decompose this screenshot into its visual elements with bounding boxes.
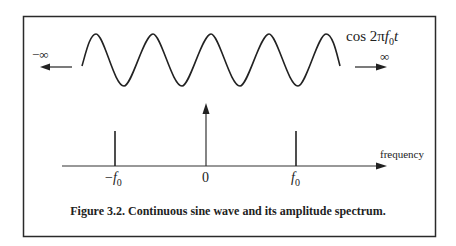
pos-infinity-label: ∞: [380, 49, 389, 65]
tick-zero: 0: [202, 170, 209, 186]
tick-pos-sub: 0: [295, 177, 300, 188]
formula-label: cos 2πf0t: [346, 28, 398, 47]
formula-prefix: cos 2π: [346, 28, 385, 44]
neg-infinity-label: −∞: [32, 47, 49, 63]
tick-neg-f0: −f0: [105, 170, 122, 188]
sine-wave: [82, 34, 340, 86]
tick-neg-sub: 0: [117, 177, 122, 188]
tick-pos-f0: f0: [291, 170, 300, 188]
tick-neg-sign: −: [105, 170, 113, 185]
formula-t: t: [394, 28, 398, 44]
frequency-axis: [62, 163, 387, 170]
left-arrow-icon: [40, 64, 72, 71]
dc-arrow-icon: [203, 103, 210, 166]
frequency-axis-label: frequency: [380, 148, 424, 160]
figure-caption: Figure 3.2. Continuous sine wave and its…: [0, 204, 456, 219]
